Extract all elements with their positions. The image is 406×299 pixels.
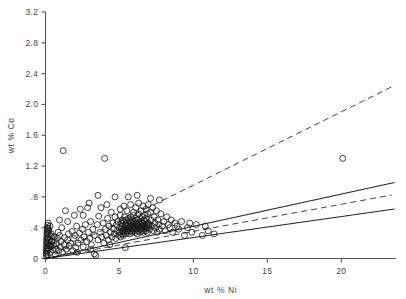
data-point [80,244,86,250]
data-point [124,208,130,214]
y-tick-label: 1.2 [25,161,38,171]
data-point [77,206,83,212]
data-point [112,194,118,200]
data-point [170,229,176,235]
data-point [95,192,101,198]
data-point [95,237,101,243]
data-point [90,226,96,232]
x-axis-title: wt % Ni [203,285,237,295]
data-point [71,212,77,218]
upper-solid-fit [46,183,395,259]
data-point [60,148,66,154]
data-point [80,212,86,218]
data-point [105,215,111,221]
middle-dashed-fit [46,195,392,258]
data-point [98,205,104,211]
data-point [96,213,102,219]
data-point [65,219,71,225]
y-tick-label: 2.0 [25,99,38,109]
data-point [88,219,94,225]
y-tick-label: 0 [33,254,38,264]
data-point [340,155,346,161]
data-point [57,217,63,223]
data-point [100,220,106,226]
x-tick-label: 0 [43,266,48,276]
x-axis-ticks: 05101520 [43,259,346,276]
y-axis-ticks: 0.4.81.21.62.02.42.83.2 [25,7,45,264]
data-point [148,195,154,201]
x-tick-label: 20 [336,266,346,276]
data-point [62,208,68,214]
data-point [158,211,164,217]
x-tick-label: 15 [262,266,272,276]
data-point [179,219,185,225]
y-tick-label: 2.4 [25,69,38,79]
data-point [199,232,205,238]
y-tick-label: 3.2 [25,7,38,17]
fit-lines-group [46,87,395,259]
data-point [101,240,107,246]
data-point [117,206,123,212]
y-tick-label: .4 [31,223,39,233]
data-point [164,214,170,220]
data-point [125,194,131,200]
data-point [134,192,140,198]
y-tick-label: 1.6 [25,130,38,140]
scatter-plot-figure: 0.4.81.21.62.02.42.83.2 05101520 wt % Ni… [0,0,406,299]
data-point [104,202,110,208]
y-axis-title: wt % Co [6,117,16,154]
x-tick-label: 10 [188,266,198,276]
data-point [168,217,174,223]
data-point [102,155,108,161]
data-point [93,252,99,258]
data-point [94,222,100,228]
y-tick-label: .8 [31,192,39,202]
y-tick-label: 2.8 [25,38,38,48]
data-point [136,200,142,206]
x-tick-label: 5 [117,266,122,276]
data-point [156,197,162,203]
chart-canvas: 0.4.81.21.62.02.42.83.2 05101520 wt % Ni… [0,0,406,299]
data-point [85,229,91,235]
data-point [189,229,195,235]
data-point [193,222,199,228]
data-point [74,223,80,229]
data-point [153,208,159,214]
